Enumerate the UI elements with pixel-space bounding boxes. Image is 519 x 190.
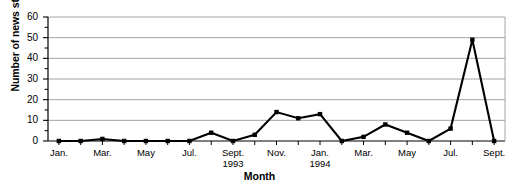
x-tick-label-month: Jan. [50, 147, 68, 158]
x-tick-label: Sept. [483, 147, 505, 158]
x-tick-label-month: Jan. [309, 147, 330, 158]
x-tick-label-month: Sept. [222, 147, 244, 158]
x-tick-label-month: Mar. [93, 147, 111, 158]
data-point-marker [231, 139, 235, 143]
data-point-marker [405, 131, 409, 135]
x-tick-label: Jul. [182, 147, 197, 158]
data-point-marker [340, 139, 344, 143]
data-point-marker [448, 126, 452, 130]
data-point-marker [187, 139, 191, 143]
x-tick-label: Mar. [354, 147, 372, 158]
x-tick-label: Mar. [93, 147, 111, 158]
data-point-marker [253, 133, 257, 137]
x-tick-label-month: May [137, 147, 155, 158]
data-point-marker [78, 139, 82, 143]
data-point-marker [492, 139, 496, 143]
x-axis-title: Month [0, 170, 519, 182]
data-point-marker [427, 139, 431, 143]
data-point-marker [383, 122, 387, 126]
news-stories-line-chart: Number of news stories 0102030405060 Jan… [0, 0, 519, 190]
data-point-marker [122, 139, 126, 143]
data-point-marker [361, 135, 365, 139]
data-line [59, 40, 494, 141]
plot-area [0, 0, 519, 190]
x-tick-label-year: 1993 [222, 158, 244, 169]
x-tick-label-month: Sept. [483, 147, 505, 158]
x-tick-label-month: May [398, 147, 416, 158]
x-tick-label-month: Jul. [182, 147, 197, 158]
x-tick-label: Jul. [443, 147, 458, 158]
x-tick-label: Jan.1994 [309, 147, 330, 169]
x-tick-label: Jan. [50, 147, 68, 158]
x-tick-label-month: Mar. [354, 147, 372, 158]
data-point-marker [57, 139, 61, 143]
data-point-marker [296, 116, 300, 120]
x-tick-label: May [398, 147, 416, 158]
x-tick-label-month: Jul. [443, 147, 458, 158]
data-point-marker [100, 137, 104, 141]
x-tick-label: Sept.1993 [222, 147, 244, 169]
x-tick-label-month: Nov. [267, 147, 286, 158]
x-tick-label: Nov. [267, 147, 286, 158]
data-point-marker [318, 112, 322, 116]
data-point-marker [144, 139, 148, 143]
x-tick-label-year: 1994 [309, 158, 330, 169]
data-point-marker [470, 38, 474, 42]
x-tick-label: May [137, 147, 155, 158]
data-point-marker [165, 139, 169, 143]
data-point-marker [209, 131, 213, 135]
data-point-marker [274, 110, 278, 114]
